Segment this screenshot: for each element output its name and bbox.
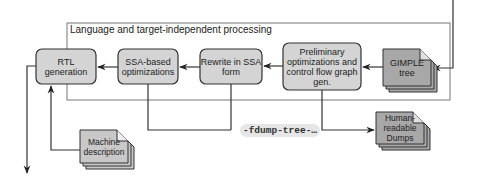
rewrite-ssa-line1: Rewrite in SSA bbox=[201, 57, 262, 67]
preliminary-label: Preliminary optimizations and control fl… bbox=[283, 43, 361, 90]
edge-machine-desc-to-rtl bbox=[51, 86, 80, 150]
machine-desc-line2: description bbox=[83, 147, 124, 157]
preliminary-line4: gen. bbox=[313, 77, 331, 87]
gimple-tree-label: GIMPLE tree bbox=[383, 50, 431, 86]
human-readable-dumps-label: Human- readable Dumps bbox=[376, 112, 424, 144]
region-title: Language and target-independent processi… bbox=[70, 24, 272, 35]
dumps-line2: readable bbox=[383, 123, 416, 133]
rewrite-ssa-label: Rewrite in SSA form bbox=[200, 49, 262, 84]
gimple-line2: tree bbox=[399, 68, 415, 78]
rtl-output-edge bbox=[27, 66, 36, 173]
dump-edge-ssa bbox=[148, 84, 231, 130]
ssa-optimizations-label: SSA-based optimizations bbox=[118, 49, 178, 84]
dump-flag-label: -fdump-tree-… bbox=[240, 124, 320, 137]
preliminary-line3: control flow graph bbox=[286, 67, 357, 77]
rtl-generation-label: RTL generation bbox=[36, 49, 96, 84]
gimple-line1: GIMPLE bbox=[390, 58, 424, 68]
ssa-optimizations-line1: SSA-based bbox=[125, 57, 171, 67]
rtl-generation-text: RTL generation bbox=[36, 57, 96, 77]
machine-desc-line1: Machine bbox=[88, 137, 120, 147]
preliminary-line2: optimizations and bbox=[287, 57, 357, 67]
machine-description-label: Machine description bbox=[80, 131, 128, 163]
dumps-line1: Human- bbox=[385, 113, 415, 123]
ssa-optimizations-line2: optimizations bbox=[122, 67, 175, 77]
dumps-line3: Dumps bbox=[387, 133, 414, 143]
dump-edge-preliminary bbox=[322, 90, 374, 130]
rewrite-ssa-line2: form bbox=[222, 67, 240, 77]
preliminary-line1: Preliminary bbox=[299, 47, 344, 57]
